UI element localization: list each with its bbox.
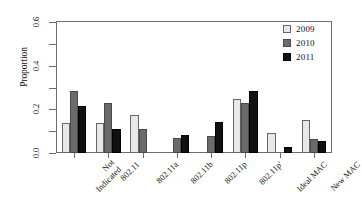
x-axis-tick [245,153,246,158]
legend-item: 2011 [283,50,331,63]
bar [318,141,326,153]
x-axis-tick [314,153,315,158]
bar [302,120,310,153]
y-axis-tick-label: 0.6 [31,9,41,35]
bar [215,122,223,153]
x-axis-tick-label: 802.11b [189,160,215,186]
legend-item: 2010 [283,36,331,49]
x-axis-tick-label: 802.11p [223,160,249,186]
y-axis-tick [49,131,56,132]
x-axis-tick-label: Ideal MAC [295,160,329,194]
x-axis-tick-label: 802.11 [119,160,142,183]
legend-swatch-icon [283,25,291,33]
y-axis-title: Proportion [19,12,29,122]
x-axis-tick [143,153,144,158]
bar [241,103,249,153]
x-axis-tick-label: New MAC [329,160,362,193]
y-axis-tick-label: 0.0 [31,140,41,166]
x-axis-tick [280,153,281,158]
bar [233,99,241,153]
bar [310,139,318,153]
x-axis-tick [74,153,75,158]
bar [207,136,215,153]
bar [112,129,120,153]
bar [139,129,147,153]
y-axis-tick [49,44,56,45]
bar [173,138,181,154]
legend: 200920102011 [283,22,331,64]
legend-label: 2010 [296,38,315,48]
legend-swatch-icon [283,53,291,61]
y-axis-tick [49,66,56,67]
bar [70,91,78,153]
bar [284,147,292,153]
x-axis-tick-label: 802.11p' [258,160,285,187]
bar [96,123,104,153]
bar [62,123,70,153]
legend-label: 2011 [296,52,314,62]
y-axis-tick-label: 0.4 [31,53,41,79]
y-axis-tick [49,153,56,154]
legend-label: 2009 [296,24,315,34]
bar [104,103,112,153]
x-axis-tick [211,153,212,158]
x-axis-tick-label: 802.11a [154,160,180,186]
legend-swatch-icon [283,39,291,47]
y-axis-tick [49,88,56,89]
x-axis-tick [177,153,178,158]
legend-item: 2009 [283,22,331,35]
bar [249,91,257,153]
y-axis-tick [49,22,56,23]
bar [181,135,189,153]
y-axis-tick-label: 0.2 [31,96,41,122]
bar [78,106,86,153]
bar [267,133,275,153]
y-axis-tick [49,109,56,110]
bar [130,115,138,153]
